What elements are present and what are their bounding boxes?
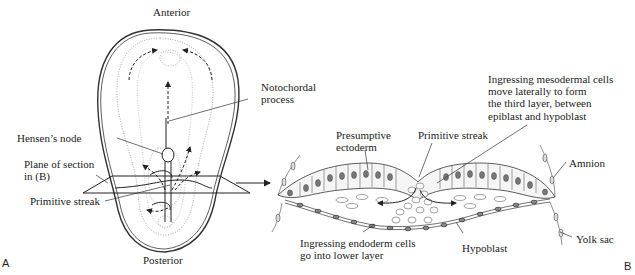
- label-mesoderm-3: the third layer, between: [488, 97, 591, 109]
- label-primitive-streak-b: Primitive streak: [418, 129, 488, 141]
- label-plane-1: Plane of section: [24, 158, 94, 170]
- label-notochordal-2: process: [261, 93, 294, 105]
- label-amnion: Amnion: [569, 157, 605, 169]
- label-presumptive-2: ectoderm: [336, 141, 377, 153]
- mesoderm-cells: [336, 183, 506, 223]
- panel-letter-a: A: [2, 257, 9, 269]
- label-yolk-sac: Yolk sac: [576, 233, 614, 245]
- label-mesoderm-4: epiblast and hypoblast: [488, 110, 586, 122]
- label-endoderm-1: Ingressing endoderm cells: [300, 237, 415, 249]
- label-posterior: Posterior: [143, 254, 183, 266]
- label-endoderm-2: go into lower layer: [300, 249, 383, 261]
- label-notochordal-1: Notochordal: [261, 81, 316, 93]
- label-plane-2: in (B): [24, 170, 50, 182]
- label-primitive-streak-a: Primitive streak: [30, 195, 100, 207]
- label-mesoderm-1: Ingressing mesodermal cells: [488, 73, 613, 85]
- label-hypoblast: Hypoblast: [462, 242, 507, 254]
- label-anterior: Anterior: [153, 6, 190, 18]
- primitive-streak-shape: [150, 118, 174, 222]
- embryo-diagram: [0, 0, 635, 275]
- label-hensens-node: Hensen’s node: [17, 132, 81, 144]
- panel-letter-b: B: [624, 260, 631, 272]
- plane-of-section: [83, 176, 250, 193]
- label-presumptive-1: Presumptive: [336, 129, 391, 141]
- label-mesoderm-2: move laterally to form: [488, 85, 587, 97]
- hypoblast-layer: [285, 199, 550, 231]
- embryo-outline: [98, 30, 239, 252]
